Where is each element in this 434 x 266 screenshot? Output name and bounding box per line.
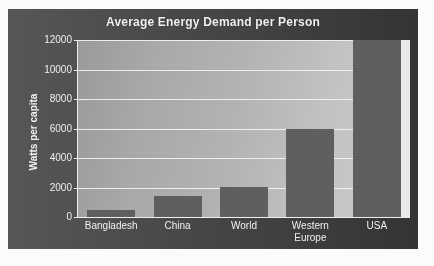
y-axis-tick [74, 217, 79, 218]
y-axis-tick-label: 6000 [26, 123, 72, 134]
y-axis-tick-label: 8000 [26, 93, 72, 104]
y-axis-tick-label: 10000 [26, 64, 72, 75]
chart-title-band: Average Energy Demand per Person [8, 9, 418, 35]
page-title: Average Energy Demand per Person [106, 15, 320, 29]
x-axis-label-bangladesh: Bangladesh [78, 220, 144, 232]
chart-panel: Average Energy Demand per Person Watts p… [8, 9, 418, 249]
x-axis-label-western-europe: Western Europe [277, 220, 343, 244]
bar-western-europe[interactable] [286, 129, 334, 218]
bar-china[interactable] [154, 196, 202, 217]
scanned-page: Average Energy Demand per Person Watts p… [0, 0, 434, 266]
x-axis-label-usa: USA [344, 220, 410, 232]
y-axis-tick [74, 188, 79, 189]
x-axis-label-world: World [211, 220, 277, 232]
y-axis-tick [74, 158, 79, 159]
y-axis-tick-label: 4000 [26, 152, 72, 163]
bar-world[interactable] [220, 187, 268, 217]
x-axis-line [77, 217, 410, 218]
y-axis-tick [74, 70, 79, 71]
bar-usa[interactable] [353, 40, 401, 217]
bar-bangladesh[interactable] [87, 210, 135, 217]
y-axis-tick-label: 0 [26, 211, 72, 222]
plot-area [78, 40, 410, 217]
y-axis-tick [74, 40, 79, 41]
x-axis-tick-labels: BangladeshChinaWorldWestern EuropeUSA [78, 220, 410, 249]
y-axis-tick [74, 99, 79, 100]
y-axis-tick [74, 129, 79, 130]
y-axis-tick-label: 2000 [26, 182, 72, 193]
x-axis-label-china: China [144, 220, 210, 232]
y-axis-tick-label: 12000 [26, 34, 72, 45]
